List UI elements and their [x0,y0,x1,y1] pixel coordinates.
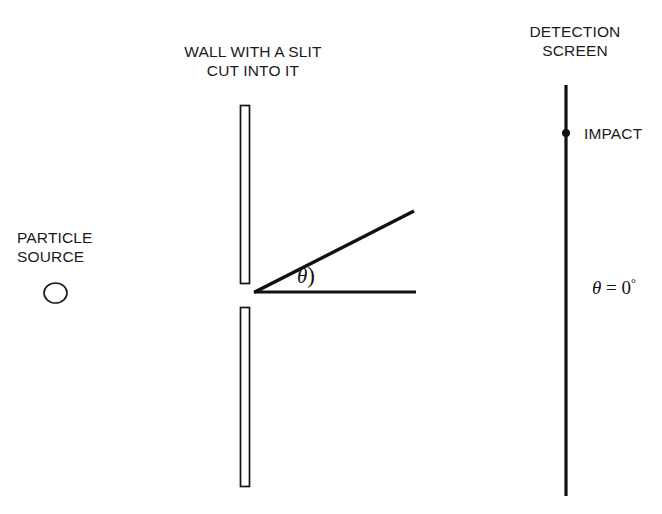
theta-zero-equals: = [601,277,621,298]
theta-zero-annotation: θ = 0° [592,276,636,299]
particle-source-circle [44,283,67,303]
impact-dot [562,129,570,137]
degree-sign-icon: ° [631,276,636,290]
theta-zero-value: 0 [622,277,632,298]
particle-source-caption-label: PARTICLE SOURCE [17,228,147,266]
wall-slab-upper-icon [241,106,250,284]
theta-angle-annotation: θ) [297,263,316,289]
detection-screen-caption-label: DETECTION SCREEN [500,22,650,60]
particle-slit-diagram: WALL WITH A SLIT CUT INTO IT DETECTION S… [0,0,662,514]
wall-slab-lower-icon [241,308,250,487]
theta-zero-symbol: θ [592,277,601,298]
angle-arc-paren-icon: ) [307,263,315,288]
impact-point-label: IMPACT [584,124,660,143]
wall-caption-label: WALL WITH A SLIT CUT INTO IT [148,42,358,80]
deflected-particle-ray [254,211,414,293]
theta-symbol: θ [297,264,307,288]
